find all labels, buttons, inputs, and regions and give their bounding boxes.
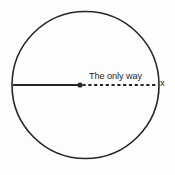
x-axis-label: x bbox=[160, 78, 165, 88]
annotation-label: The only way bbox=[89, 72, 142, 81]
circle-diagram bbox=[0, 0, 175, 175]
diagram-canvas: The only way x bbox=[0, 0, 175, 175]
center-point-dot bbox=[77, 82, 82, 87]
